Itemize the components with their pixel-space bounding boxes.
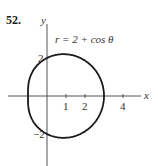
y-tick-label-neg2: −2 [33, 128, 45, 140]
x-tick-label: 4 [120, 100, 126, 112]
y-axis-label: y [40, 14, 46, 26]
chart-title: r = 2 + cos θ [55, 33, 114, 45]
x-tick-label: 2 [82, 100, 88, 112]
polar-plot: 124 x y 2 −2 r = 2 + cos θ [0, 0, 158, 166]
x-tick-label: 1 [63, 100, 69, 112]
y-tick-label-2: 2 [38, 52, 44, 64]
x-ticks: 124 [63, 94, 126, 112]
x-axis-label: x [143, 89, 149, 101]
